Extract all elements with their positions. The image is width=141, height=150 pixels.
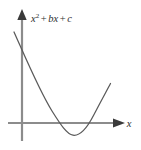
function-label-exponent: 2 [36, 12, 40, 20]
parabola-figure: x2+bx+c x [0, 0, 141, 150]
function-label-plus-two: + [60, 13, 66, 24]
function-label-linear-term: bx [48, 13, 58, 24]
graph-canvas: x2+bx+c x [0, 0, 141, 150]
x-axis-label: x [126, 118, 132, 129]
function-label-constant: c [67, 13, 72, 24]
function-label-plus-one: + [41, 13, 47, 24]
